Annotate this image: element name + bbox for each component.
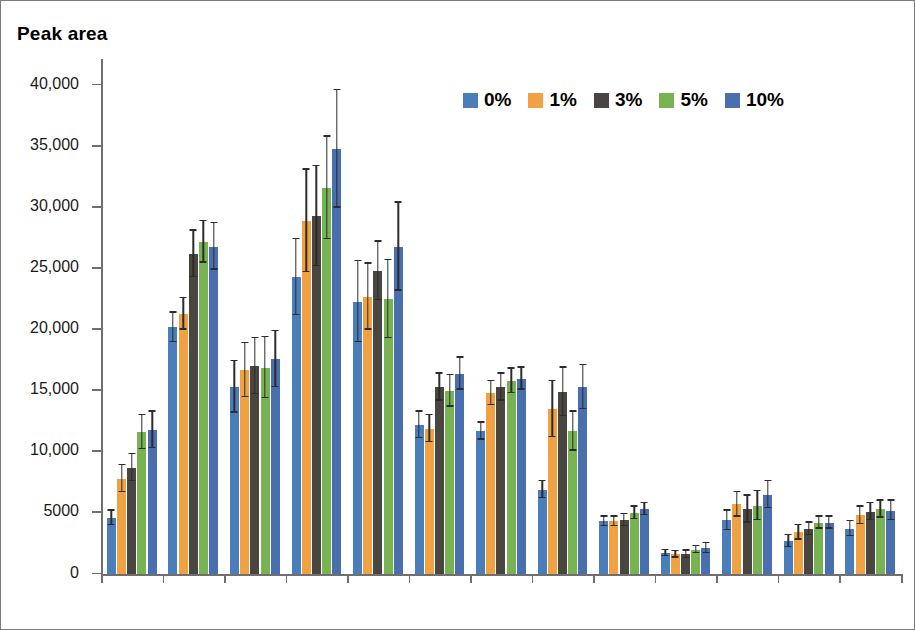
bar-rect <box>209 247 218 574</box>
error-bar-cap-top <box>682 549 689 550</box>
error-bar-cap-bottom <box>416 437 423 438</box>
bar-DES-0pct[interactable] <box>722 61 731 574</box>
bar-BPA-10pct[interactable] <box>701 61 710 574</box>
error-bar-cap-top <box>118 464 125 465</box>
bar-TRC-1pct[interactable] <box>609 61 618 574</box>
bar-BP-3pct[interactable] <box>312 61 321 574</box>
bar-DEET-3pct[interactable] <box>127 61 136 574</box>
bar-DEET-10pct[interactable] <box>148 61 157 574</box>
bar-BPH-10pct[interactable] <box>209 61 218 574</box>
bar-DIC-10pct[interactable] <box>578 61 587 574</box>
bar-4OP-0pct[interactable] <box>353 61 362 574</box>
error-bar-cap-bottom <box>210 268 217 269</box>
bar-E1-10pct[interactable] <box>886 61 895 574</box>
bar-E1-5pct[interactable] <box>876 61 885 574</box>
bar-E1-0pct[interactable] <box>845 61 854 574</box>
bar-3MBC-1pct[interactable] <box>425 61 434 574</box>
bar-E1-1pct[interactable] <box>856 61 865 574</box>
bar-DES-5pct[interactable] <box>753 61 762 574</box>
x-axis-tick <box>409 574 411 583</box>
bar-BPH-0pct[interactable] <box>168 61 177 574</box>
error-bar-cap-top <box>754 490 761 491</box>
bar-rect <box>476 431 485 574</box>
y-axis-tick-label: 25,000 <box>30 258 79 276</box>
error-bar-cap-top <box>323 135 330 136</box>
y-axis-tick-label: 20,000 <box>30 319 79 337</box>
error-bar-cap-top <box>385 259 392 260</box>
error-bar-cap-top <box>815 515 822 516</box>
bar-E2-5pct[interactable] <box>814 61 823 574</box>
bar-DIC-0pct[interactable] <box>538 61 547 574</box>
bar-E2-1pct[interactable] <box>794 61 803 574</box>
bar-DEET-5pct[interactable] <box>137 61 146 574</box>
bar-PP-3pct[interactable] <box>250 61 259 574</box>
bar-BPA-0pct[interactable] <box>661 61 670 574</box>
bar-TRC-10pct[interactable] <box>640 61 649 574</box>
bar-4OP-3pct[interactable] <box>373 61 382 574</box>
bar-PP-5pct[interactable] <box>261 61 270 574</box>
bar-E1-3pct[interactable] <box>866 61 875 574</box>
bar-4NP-0pct[interactable] <box>476 61 485 574</box>
bar-DES-1pct[interactable] <box>732 61 741 574</box>
bar-BP-5pct[interactable] <box>322 61 331 574</box>
x-axis-tick <box>532 574 534 583</box>
bar-rect <box>261 368 270 574</box>
error-bar <box>398 203 399 291</box>
bar-BPH-5pct[interactable] <box>199 61 208 574</box>
error-bar-cap-bottom <box>374 299 381 300</box>
bar-BPA-1pct[interactable] <box>671 61 680 574</box>
bar-group-PP <box>230 61 280 574</box>
y-axis-tick-label: 30,000 <box>30 197 79 215</box>
bar-TRC-3pct[interactable] <box>620 61 629 574</box>
bar-4NP-3pct[interactable] <box>496 61 505 574</box>
bar-4NP-5pct[interactable] <box>507 61 516 574</box>
bar-BPA-5pct[interactable] <box>691 61 700 574</box>
bar-E2-10pct[interactable] <box>825 61 834 574</box>
bar-DIC-5pct[interactable] <box>568 61 577 574</box>
bar-3MBC-0pct[interactable] <box>415 61 424 574</box>
bar-BPA-3pct[interactable] <box>681 61 690 574</box>
bar-BP-1pct[interactable] <box>302 61 311 574</box>
error-bar-cap-top <box>744 494 751 495</box>
bar-E2-3pct[interactable] <box>804 61 813 574</box>
bar-rect <box>599 521 608 574</box>
bar-BP-0pct[interactable] <box>292 61 301 574</box>
bar-DIC-1pct[interactable] <box>548 61 557 574</box>
bar-3MBC-3pct[interactable] <box>435 61 444 574</box>
error-bar-cap-bottom <box>241 396 248 397</box>
y-axis-tick-label: 5000 <box>43 502 79 520</box>
bar-PP-10pct[interactable] <box>271 61 280 574</box>
error-bar-cap-top <box>877 499 884 500</box>
bar-rect <box>866 512 875 574</box>
bar-BPH-1pct[interactable] <box>179 61 188 574</box>
bar-PP-0pct[interactable] <box>230 61 239 574</box>
bar-DIC-3pct[interactable] <box>558 61 567 574</box>
bar-DEET-1pct[interactable] <box>117 61 126 574</box>
bar-PP-1pct[interactable] <box>240 61 249 574</box>
error-bar-cap-bottom <box>682 557 689 558</box>
error-bar <box>521 368 522 390</box>
bar-BP-10pct[interactable] <box>332 61 341 574</box>
bar-BPH-3pct[interactable] <box>189 61 198 574</box>
bar-DEET-0pct[interactable] <box>107 61 116 574</box>
error-bar-cap-top <box>272 330 279 331</box>
bar-4NP-10pct[interactable] <box>517 61 526 574</box>
bar-TRC-5pct[interactable] <box>630 61 639 574</box>
x-axis-tick <box>655 574 657 583</box>
error-bar-cap-top <box>251 337 258 338</box>
error-bar-cap-bottom <box>436 399 443 400</box>
y-axis-tick: 30,000 <box>92 206 101 208</box>
bar-4NP-1pct[interactable] <box>486 61 495 574</box>
bar-TRC-0pct[interactable] <box>599 61 608 574</box>
bar-DES-10pct[interactable] <box>763 61 772 574</box>
bar-3MBC-5pct[interactable] <box>445 61 454 574</box>
bar-3MBC-10pct[interactable] <box>455 61 464 574</box>
bar-DES-3pct[interactable] <box>743 61 752 574</box>
error-bar-cap-top <box>333 89 340 90</box>
bar-4OP-10pct[interactable] <box>394 61 403 574</box>
bar-4OP-5pct[interactable] <box>384 61 393 574</box>
bar-4OP-1pct[interactable] <box>363 61 372 574</box>
bar-E2-0pct[interactable] <box>784 61 793 574</box>
error-bar <box>572 412 573 451</box>
error-bar-cap-bottom <box>621 525 628 526</box>
